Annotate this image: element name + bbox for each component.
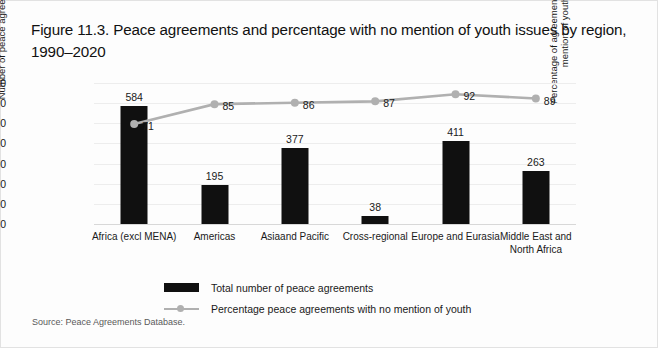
line-series: [94, 83, 576, 224]
y-tick-left: 100: [0, 199, 6, 209]
source-note: Source: Peace Agreements Database.: [32, 317, 185, 327]
y-tick-left: 0: [0, 219, 6, 229]
figure-title: Figure 11.3. Peace agreements and percen…: [31, 19, 631, 63]
figure-container: Figure 11.3. Peace agreements and percen…: [0, 0, 658, 348]
y-tick-left: 700: [0, 78, 6, 88]
line-marker: [291, 99, 299, 107]
gridline: [94, 224, 576, 225]
plot-area: 0100200300400500600700 01020304050607080…: [94, 83, 576, 224]
legend-item: Percentage peace agreements with no ment…: [164, 298, 471, 319]
line-value-label: 92: [464, 90, 476, 102]
line-path: [134, 94, 536, 124]
y-tick-left: 600: [0, 98, 6, 108]
legend-label: Total number of peace agreements: [211, 282, 373, 294]
line-value-label: 86: [303, 99, 315, 111]
line-value-label: 87: [383, 97, 395, 109]
y-tick-left: 200: [0, 179, 6, 189]
x-category-label: Middle East and North Africa: [488, 231, 584, 256]
legend-bar-swatch-icon: [164, 283, 199, 292]
y-tick-left: 400: [0, 138, 6, 148]
legend-item: Total number of peace agreements: [164, 277, 471, 298]
legend-label: Percentage peace agreements with no ment…: [211, 303, 471, 315]
line-value-label: 85: [223, 100, 235, 112]
y-tick-left: 300: [0, 159, 6, 169]
line-marker: [130, 120, 138, 128]
line-marker: [371, 97, 379, 105]
line-value-label: 71: [142, 120, 154, 132]
line-marker: [211, 100, 219, 108]
y-axis-left-title: Number of peace agreements: [0, 0, 7, 112]
chart-legend: Total number of peace agreementsPercenta…: [164, 277, 471, 319]
line-value-label: 89: [544, 95, 556, 107]
y-tick-left: 500: [0, 118, 6, 128]
legend-line-swatch-icon: [164, 304, 199, 313]
line-marker: [452, 90, 460, 98]
line-marker: [532, 95, 540, 103]
